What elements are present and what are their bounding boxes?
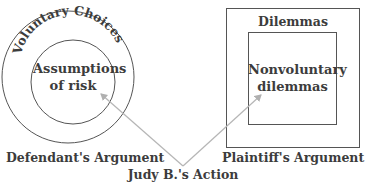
dilemmas-label: Dilemmas — [226, 14, 360, 29]
assumptions-of-risk-line1: Assumptions — [33, 60, 113, 77]
nonvoluntary-dilemmas-line2: dilemmas — [248, 78, 337, 95]
voluntary-choices-arc-label: Voluntary Choices — [9, 3, 128, 57]
defendants-argument-caption: Defendant's Argument — [6, 150, 136, 165]
plaintiffs-argument-caption: Plaintiff's Argument — [222, 150, 364, 165]
nonvoluntary-dilemmas-label: Nonvoluntary dilemmas — [248, 61, 337, 95]
assumptions-of-risk-label: Assumptions of risk — [33, 60, 113, 94]
judy-b-action-label: Judy B.'s Action — [120, 167, 246, 182]
nonvoluntary-dilemmas-line1: Nonvoluntary — [248, 61, 337, 78]
assumptions-of-risk-line2: of risk — [33, 77, 113, 94]
